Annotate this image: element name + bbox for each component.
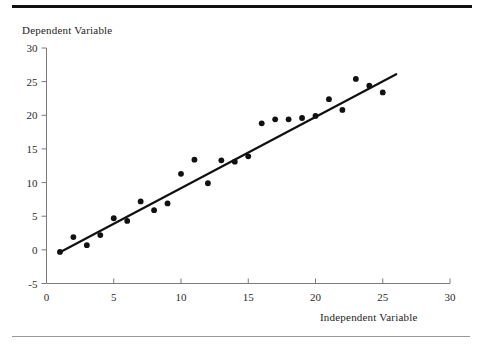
data-point [178, 171, 184, 177]
data-point [286, 116, 292, 122]
data-point [245, 153, 251, 159]
y-axis-tick-label: 30 [27, 42, 39, 54]
data-point [218, 157, 224, 163]
data-point [380, 90, 386, 96]
x-axis-ticks: 051015202530 [44, 279, 456, 303]
data-point [97, 232, 103, 238]
data-point [353, 76, 359, 82]
regression-line [60, 74, 396, 252]
y-axis-tick-label: -5 [28, 278, 38, 290]
data-point [313, 113, 319, 119]
data-point [151, 207, 157, 213]
y-axis-tick-label: 0 [32, 244, 38, 256]
bottom-divider-rule [12, 336, 470, 337]
y-axis-tick-label: 10 [27, 177, 39, 189]
data-point [111, 215, 117, 221]
x-axis-tick-label: 10 [176, 291, 188, 303]
data-point [340, 107, 346, 113]
x-axis-tick-label: 30 [445, 291, 457, 303]
x-axis-title: Independent Variable [320, 311, 418, 323]
data-point [259, 120, 265, 126]
x-axis-tick-label: 25 [377, 291, 389, 303]
scatter-plot-svg: -5051015202530 051015202530 [0, 0, 482, 346]
y-axis-ticks: -5051015202530 [27, 42, 47, 290]
data-point [84, 242, 90, 248]
axes-group [47, 48, 451, 284]
data-point [192, 157, 198, 163]
data-point [205, 180, 211, 186]
data-point [299, 115, 305, 121]
figure-container: Dependent Variable -5051015202530 051015… [0, 0, 482, 346]
data-point [232, 159, 238, 165]
x-axis-tick-label: 5 [111, 291, 117, 303]
x-axis-tick-label: 20 [310, 291, 322, 303]
x-axis-tick-label: 15 [243, 291, 255, 303]
y-axis-tick-label: 15 [27, 143, 39, 155]
y-axis-tick-label: 20 [27, 109, 39, 121]
data-point [366, 83, 372, 89]
data-point [57, 249, 63, 255]
data-point [326, 96, 332, 102]
trend-line [60, 74, 396, 252]
x-axis-tick-label: 0 [44, 291, 50, 303]
data-point [71, 234, 77, 240]
data-point [272, 116, 278, 122]
data-point [165, 201, 171, 207]
y-axis-tick-label: 25 [27, 76, 39, 88]
y-axis-tick-label: 5 [32, 210, 38, 222]
data-point [138, 199, 144, 205]
data-point [124, 218, 130, 224]
